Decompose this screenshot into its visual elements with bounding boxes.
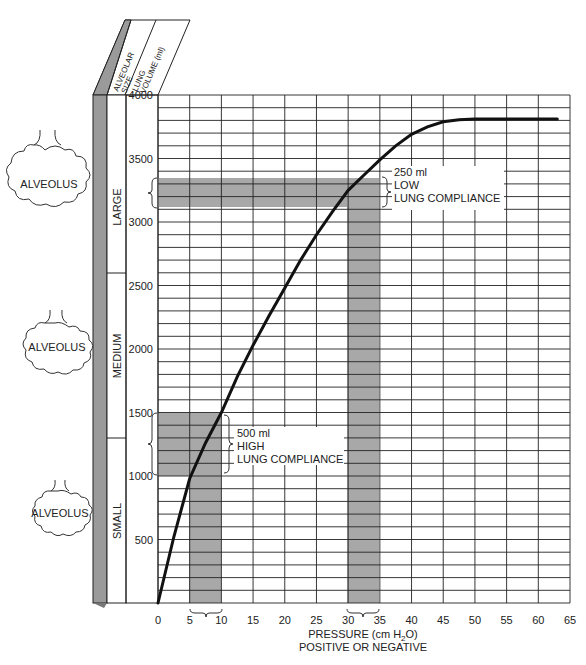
alveolus-small: ALVEOLUS [31,480,92,536]
y-tick-label: 1000 [129,470,153,482]
x-tick-label: 55 [500,614,512,626]
y-tick-label: 1500 [129,407,153,419]
low-label: LOW [394,179,420,191]
x-tick-label: 45 [437,614,449,626]
y-tick-label: 3000 [129,216,153,228]
x-tick-label: 60 [532,614,544,626]
alveolus-medium: ALVEOLUS [23,310,93,374]
high-label: HIGH [237,440,265,452]
y-tick-label: 2500 [129,280,153,292]
alveolus-medium-label: ALVEOLUS [28,341,85,353]
x-tick-label: 0 [155,614,161,626]
compliance-chart: ALVEOLAR SIZE LUNG VOLUME (ml) LARGE MED… [0,0,586,665]
y-axis-ticks: 5001000150020002500300035004000 [129,89,153,546]
x-tick-label: 10 [215,614,227,626]
header-block: ALVEOLAR SIZE LUNG VOLUME (ml) [93,20,190,95]
x-tick-label: 20 [279,614,291,626]
x-tick-label: 15 [247,614,259,626]
alveolus-large-icon [6,145,90,207]
y-tick-label: 500 [135,534,153,546]
alveolus-large-label: ALVEOLUS [20,178,77,190]
x-tick-label: 35 [374,614,386,626]
x-tick-label: 25 [310,614,322,626]
x-tick-label: 65 [564,614,576,626]
alveolus-small-label: ALVEOLUS [31,507,88,519]
high-compliance-label: LUNG COMPLIANCE [237,453,343,465]
low-amount: 250 ml [394,166,427,178]
size-medium-label: MEDIUM [111,334,123,379]
size-small-label: SMALL [111,503,123,539]
x-tick-label: 40 [405,614,417,626]
y-tick-label: 3500 [129,153,153,165]
high-amount: 500 ml [237,427,270,439]
chart-grid [158,95,570,603]
low-compliance-label: LUNG COMPLIANCE [394,192,500,204]
y-tick-label: 4000 [129,89,153,101]
pillar-side [93,95,107,603]
alveolus-large: ALVEOLUS [6,130,90,207]
x-axis-subtitle: POSITIVE OR NEGATIVE [299,641,427,653]
x-tick-label: 50 [469,614,481,626]
x-tick-label: 5 [187,614,193,626]
x-axis-ticks: 05101520253035404550556065 [155,614,576,626]
y-tick-label: 2000 [129,343,153,355]
size-large-label: LARGE [111,188,123,225]
x-tick-label: 30 [342,614,354,626]
